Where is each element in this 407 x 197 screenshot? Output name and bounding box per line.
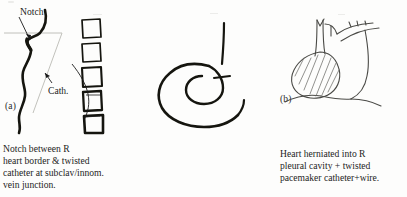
caption-line: vein junction. bbox=[3, 179, 104, 191]
caption-line: heart border & twisted bbox=[3, 155, 104, 167]
panel-c-drawing bbox=[265, 0, 407, 118]
panel-a: Notch Cath. (a) Notch between R heart bo… bbox=[0, 0, 138, 197]
panel-label-a: (a) bbox=[5, 101, 16, 111]
caption-line: Notch between R bbox=[3, 143, 104, 155]
catheter-annotation-label: Cath. bbox=[48, 85, 69, 96]
figure-plate: Notch Cath. (a) Notch between R heart bo… bbox=[0, 0, 407, 197]
notch-annotation-label: Notch bbox=[20, 6, 43, 17]
caption-line: catheter at subclav/innom. bbox=[3, 167, 104, 179]
caption-a: Notch between R heart border & twisted c… bbox=[3, 143, 104, 191]
panel-b-drawing bbox=[138, 0, 265, 145]
panel-c: (c) 'Snow cone sign - partial or impendi… bbox=[265, 0, 407, 197]
panel-b: (b) Heart herniated into R pleural cavit… bbox=[138, 0, 265, 197]
panel-a-drawing bbox=[0, 0, 138, 140]
